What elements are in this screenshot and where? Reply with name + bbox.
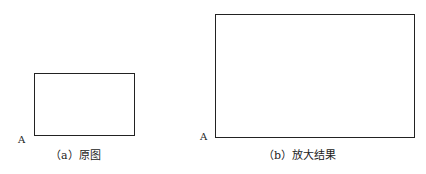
original-rectangle	[34, 73, 135, 136]
caption-original: （a）原图	[50, 150, 101, 162]
scaled-rectangle	[215, 14, 415, 138]
corner-label-a: A	[200, 132, 207, 142]
caption-scaled: （b）放大结果	[263, 150, 336, 162]
corner-label-a: A	[18, 135, 25, 145]
